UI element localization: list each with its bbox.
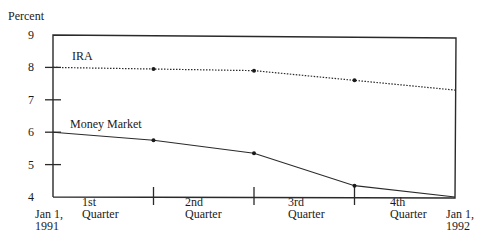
series-label: Money Market: [70, 117, 142, 131]
data-point: [152, 138, 156, 142]
quarter-label: 4thQuarter: [390, 195, 427, 221]
y-tick-label: 8: [28, 60, 34, 74]
x-end-label: Jan 1,1992: [446, 207, 474, 233]
y-tick-label: 6: [28, 125, 34, 139]
y-axis-title: Percent: [8, 9, 45, 23]
quarter-label: 1stQuarter: [82, 195, 119, 221]
data-point: [252, 151, 256, 155]
series-lines: IRAMoney Market: [53, 49, 455, 197]
data-point: [152, 67, 156, 71]
y-axis: 456789: [28, 28, 61, 204]
data-point: [252, 69, 256, 73]
series-label: IRA: [72, 49, 93, 63]
y-tick-label: 7: [28, 93, 34, 107]
data-point: [353, 78, 357, 82]
quarter-label: 2ndQuarter: [185, 195, 222, 221]
quarter-label: 3rdQuarter: [288, 195, 325, 221]
data-point: [353, 184, 357, 188]
y-tick-label: 9: [28, 28, 34, 42]
y-tick-label: 4: [28, 190, 34, 204]
x-axis: Jan 1,1991Jan 1,19921stQuarter2ndQuarter…: [35, 187, 474, 233]
x-start-label: Jan 1,1991: [35, 207, 63, 233]
y-tick-label: 5: [28, 158, 34, 172]
line-chart: Percent 456789 Jan 1,1991Jan 1,19921stQu…: [0, 0, 499, 245]
